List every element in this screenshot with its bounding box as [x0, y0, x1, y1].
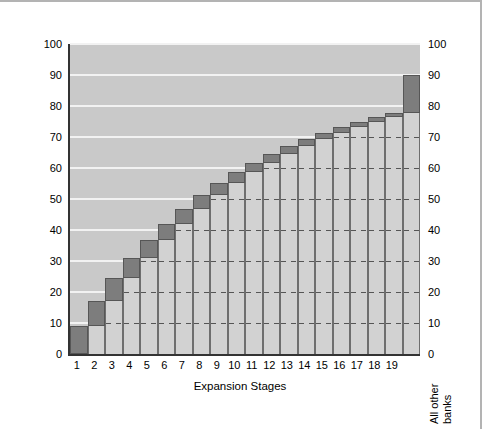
bar-cumulative[interactable]: [210, 195, 228, 354]
x-tick-label: 5: [138, 360, 156, 371]
bar-dashed-gridline: [211, 199, 227, 200]
bar-increment[interactable]: [140, 240, 158, 258]
bar-cumulative[interactable]: [158, 240, 176, 354]
bar-increment[interactable]: [298, 139, 316, 146]
bar-increment[interactable]: [385, 113, 403, 117]
bar-group[interactable]: [298, 44, 316, 354]
bar-cumulative[interactable]: [350, 127, 368, 354]
bar-increment[interactable]: [88, 301, 106, 326]
bar-group[interactable]: [350, 44, 368, 354]
bar-increment[interactable]: [70, 326, 88, 354]
bar-group[interactable]: [175, 44, 193, 354]
x-tick-label: 11: [243, 360, 261, 371]
bar-dashed-gridline: [316, 292, 332, 293]
bar-increment[interactable]: [245, 163, 263, 173]
x-tick-label: 6: [156, 360, 174, 371]
bar-group[interactable]: [158, 44, 176, 354]
bar-group[interactable]: [210, 44, 228, 354]
bar-dashed-gridline: [386, 261, 402, 262]
bar-increment[interactable]: [123, 258, 141, 278]
bar-group[interactable]: [315, 44, 333, 354]
x-tick-label: 4: [121, 360, 139, 371]
bar-increment[interactable]: [228, 172, 246, 183]
bar-cumulative[interactable]: [280, 154, 298, 354]
bar-cumulative[interactable]: [140, 258, 158, 354]
bar-increment[interactable]: [175, 209, 193, 224]
bar-increment[interactable]: [105, 278, 123, 301]
bar-dashed-gridline: [106, 323, 122, 324]
bar-group[interactable]: [245, 44, 263, 354]
bar-dashed-gridline: [299, 323, 315, 324]
bar-cumulative[interactable]: [385, 117, 403, 354]
bar-dashed-gridline: [211, 230, 227, 231]
bar-cumulative[interactable]: [123, 278, 141, 354]
bar-group[interactable]: [140, 44, 158, 354]
bar-increment[interactable]: [263, 154, 281, 163]
bar-dashed-gridline: [316, 261, 332, 262]
bar-dashed-gridline: [369, 137, 385, 138]
bar-group[interactable]: [123, 44, 141, 354]
bar-group[interactable]: [403, 44, 421, 354]
bar-cumulative[interactable]: [263, 163, 281, 354]
y-tick-label-right: 90: [428, 70, 454, 81]
bar-increment[interactable]: [210, 183, 228, 195]
bar-increment[interactable]: [333, 127, 351, 133]
bar-increment[interactable]: [193, 195, 211, 208]
y-tick-label-left: 50: [36, 194, 62, 205]
bar-dashed-gridline: [404, 261, 420, 262]
bar-group[interactable]: [228, 44, 246, 354]
bar-dashed-gridline: [211, 292, 227, 293]
bar-group[interactable]: [88, 44, 106, 354]
bar-cumulative[interactable]: [88, 326, 106, 354]
bar-dashed-gridline: [229, 292, 245, 293]
bar-dashed-gridline: [176, 261, 192, 262]
bar-group[interactable]: [280, 44, 298, 354]
bar-increment[interactable]: [368, 117, 386, 122]
bar-increment[interactable]: [280, 146, 298, 154]
bar-cumulative[interactable]: [368, 122, 386, 355]
x-tick-label: 17: [348, 360, 366, 371]
bar-group[interactable]: [105, 44, 123, 354]
x-tick-label: 8: [191, 360, 209, 371]
bar-cumulative[interactable]: [105, 301, 123, 354]
bar-dashed-gridline: [176, 230, 192, 231]
bar-series: [70, 44, 420, 354]
bar-group[interactable]: [368, 44, 386, 354]
bar-cumulative[interactable]: [315, 139, 333, 354]
bar-increment[interactable]: [350, 122, 368, 127]
bar-cumulative[interactable]: [228, 183, 246, 354]
bar-dashed-gridline: [141, 261, 157, 262]
bar-dashed-gridline: [316, 199, 332, 200]
bar-increment[interactable]: [158, 224, 176, 240]
bar-dashed-gridline: [124, 292, 140, 293]
bar-dashed-gridline: [246, 230, 262, 231]
bar-dashed-gridline: [159, 261, 175, 262]
plot-area: [68, 44, 420, 356]
bar-cumulative[interactable]: [175, 224, 193, 355]
bar-group[interactable]: [263, 44, 281, 354]
bar-group[interactable]: [385, 44, 403, 354]
x-tick-label: 7: [173, 360, 191, 371]
bar-cumulative[interactable]: [193, 209, 211, 354]
x-tick-label: 16: [331, 360, 349, 371]
bar-dashed-gridline: [264, 230, 280, 231]
bar-cumulative[interactable]: [245, 172, 263, 354]
bar-dashed-gridline: [334, 261, 350, 262]
x-tick-all-other-banks: All other banks: [414, 358, 482, 372]
bar-cumulative[interactable]: [403, 113, 421, 354]
bar-cumulative[interactable]: [333, 133, 351, 354]
bar-dashed-gridline: [404, 292, 420, 293]
bar-dashed-gridline: [369, 292, 385, 293]
bar-dashed-gridline: [246, 323, 262, 324]
bar-cumulative[interactable]: [298, 146, 316, 354]
bar-dashed-gridline: [141, 323, 157, 324]
bar-group[interactable]: [333, 44, 351, 354]
bar-dashed-gridline: [299, 261, 315, 262]
bar-group[interactable]: [70, 44, 88, 354]
bar-group[interactable]: [193, 44, 211, 354]
bar-increment[interactable]: [403, 75, 421, 113]
all-other-banks-line-2: banks: [441, 395, 454, 424]
bar-increment[interactable]: [315, 133, 333, 139]
y-tick-label-left: 70: [36, 132, 62, 143]
bar-dashed-gridline: [194, 230, 210, 231]
